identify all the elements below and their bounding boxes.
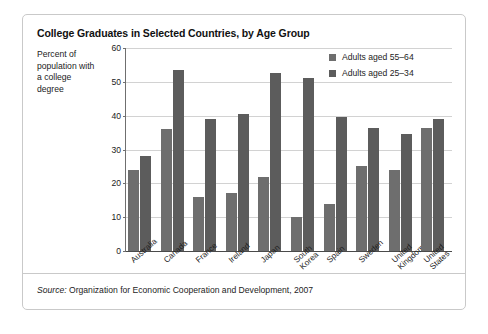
bar[interactable] xyxy=(433,119,444,251)
y-tick-label: 40 xyxy=(111,111,121,121)
legend-swatch-icon xyxy=(329,54,336,61)
y-tick-label: 0 xyxy=(116,246,121,256)
bar-group: France xyxy=(191,48,224,251)
bar[interactable] xyxy=(161,129,172,251)
bar[interactable] xyxy=(401,134,412,251)
bar[interactable] xyxy=(128,170,139,251)
figure-card: College Graduates in Selected Countries,… xyxy=(22,14,466,310)
bar[interactable] xyxy=(291,217,302,251)
bar-group: Ireland xyxy=(224,48,257,251)
y-tick-label: 10 xyxy=(111,212,121,222)
y-tick-label: 60 xyxy=(111,43,121,53)
bar-group: Australia xyxy=(126,48,159,251)
bar[interactable] xyxy=(324,204,335,251)
legend-item-series-0[interactable]: Adults aged 55–64 xyxy=(329,52,461,62)
y-tick-mark xyxy=(123,251,126,252)
y-tick-label: 20 xyxy=(111,178,121,188)
bar[interactable] xyxy=(336,117,347,251)
y-tick-label: 30 xyxy=(111,145,121,155)
bar[interactable] xyxy=(258,177,269,251)
bar[interactable] xyxy=(421,128,432,251)
legend-swatch-icon xyxy=(329,70,336,77)
bar[interactable] xyxy=(205,119,216,251)
source-note: Source: Organization for Economic Cooper… xyxy=(37,285,313,295)
chart-legend: Adults aged 55–64 Adults aged 25–34 xyxy=(329,52,461,84)
bar[interactable] xyxy=(193,197,204,251)
y-tick-label: 50 xyxy=(111,77,121,87)
bar[interactable] xyxy=(226,193,237,251)
footer-divider xyxy=(23,273,465,274)
source-prefix: Source: xyxy=(37,285,67,295)
y-axis-title: Percent of population with a college deg… xyxy=(37,49,99,95)
bar[interactable] xyxy=(270,73,281,251)
bar[interactable] xyxy=(173,70,184,251)
bar[interactable] xyxy=(368,128,379,251)
bar-group: Japan xyxy=(256,48,289,251)
bar-group: SouthKorea xyxy=(289,48,322,251)
legend-label: Adults aged 55–64 xyxy=(342,52,414,62)
legend-item-series-1[interactable]: Adults aged 25–34 xyxy=(329,68,461,78)
bar[interactable] xyxy=(356,166,367,251)
chart-title: College Graduates in Selected Countries,… xyxy=(37,27,310,39)
bar-group: Canada xyxy=(159,48,192,251)
bar[interactable] xyxy=(140,156,151,251)
legend-label: Adults aged 25–34 xyxy=(342,68,414,78)
bar[interactable] xyxy=(238,114,249,251)
bar[interactable] xyxy=(303,78,314,251)
bar[interactable] xyxy=(389,170,400,251)
source-text: Organization for Economic Cooperation an… xyxy=(67,285,314,295)
